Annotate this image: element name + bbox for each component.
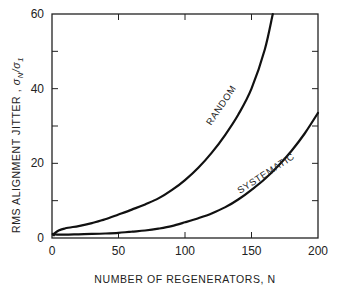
tick-labels: 0501001502000204060 xyxy=(31,7,329,258)
random-curve-label: RANDOM xyxy=(204,83,239,127)
y-tick-label: 40 xyxy=(31,82,45,96)
x-axis-title: NUMBER OF REGENERATORS, N xyxy=(94,273,275,285)
y-axis-title-math: σN/σ1 xyxy=(10,57,25,85)
y-tick-label: 0 xyxy=(37,231,44,245)
plot-frame xyxy=(52,14,318,238)
axis-ticks xyxy=(52,14,318,238)
y-tick-label: 60 xyxy=(31,7,45,21)
x-tick-label: 0 xyxy=(49,244,56,258)
y-axis-title: RMS ALIGNMENT JITTER , σN/σ1 xyxy=(10,57,25,233)
x-tick-label: 200 xyxy=(308,244,328,258)
x-tick-label: 50 xyxy=(112,244,126,258)
systematic-curve xyxy=(53,113,318,235)
chart: 0501001502000204060 RANDOM SYSTEMATIC NU… xyxy=(0,0,339,290)
y-tick-label: 20 xyxy=(31,156,45,170)
x-tick-label: 150 xyxy=(241,244,261,258)
curves xyxy=(53,14,318,235)
systematic-curve-label: SYSTEMATIC xyxy=(235,151,296,196)
random-curve xyxy=(53,14,272,234)
y-axis-title-main: RMS ALIGNMENT JITTER , xyxy=(10,85,22,233)
x-tick-label: 100 xyxy=(175,244,195,258)
